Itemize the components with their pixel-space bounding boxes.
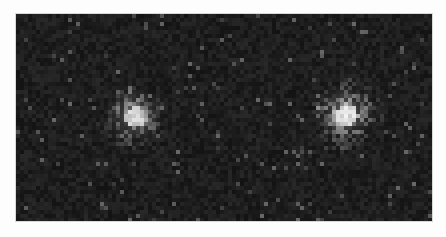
noise-field	[16, 14, 432, 221]
image-frame	[16, 14, 432, 221]
